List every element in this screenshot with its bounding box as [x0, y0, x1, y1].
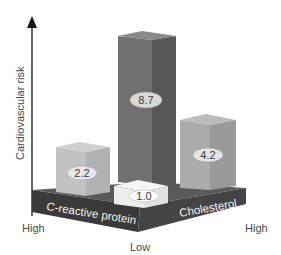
bar-right: 4.2	[180, 114, 236, 190]
y-axis-label: Cardiovascular risk	[14, 66, 26, 160]
bar-back: 8.7	[118, 31, 176, 190]
tick-cholesterol-high: High	[245, 222, 268, 234]
bar-value-front: 1.0	[136, 190, 151, 202]
tick-low: Low	[130, 241, 150, 253]
tick-crp-high: High	[22, 222, 45, 234]
bar-left: 2.2	[56, 142, 110, 196]
bar-value-back: 8.7	[138, 94, 153, 106]
bar-value-left: 2.2	[74, 167, 89, 179]
y-axis-arrow-icon	[27, 16, 37, 28]
chart-canvas: Cardiovascular risk 8.7 2.2 4.2	[0, 0, 281, 255]
bar-value-right: 4.2	[200, 149, 215, 161]
